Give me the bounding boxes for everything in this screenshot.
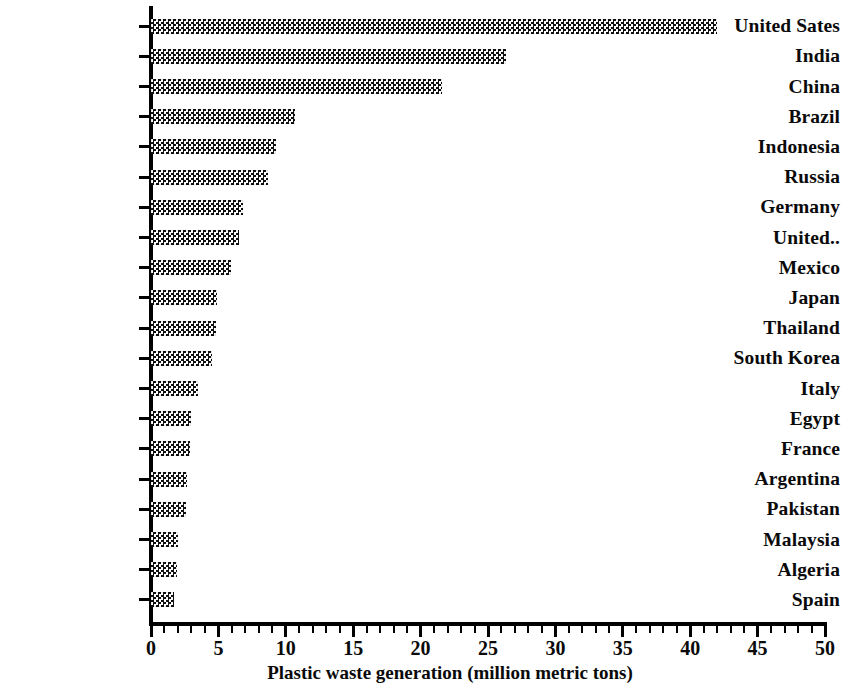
x-axis-minor-tick [500,626,502,633]
x-axis-minor-tick [447,626,449,633]
y-axis-tick [139,447,150,450]
category-label: Thailand [706,318,840,338]
x-axis-minor-tick [527,626,529,633]
category-label: Argentina [706,469,840,489]
bar [151,321,216,336]
x-tick-label: 50 [795,638,845,658]
category-label: India [706,46,840,66]
y-axis-tick [139,568,150,571]
category-label: Russia [706,167,840,187]
category-label: Pakistan [706,499,840,519]
x-tick-label: 10 [256,638,316,658]
x-axis-major-tick [824,626,827,637]
x-axis-minor-tick [797,626,799,633]
x-axis-minor-tick [730,626,732,633]
x-axis-minor-tick [743,626,745,633]
x-axis-minor-tick [474,626,476,633]
x-axis-minor-tick [393,626,395,633]
bar [151,170,268,185]
bar [151,381,198,396]
bar [151,472,187,487]
category-label: Indonesia [706,137,840,157]
x-axis-minor-tick [811,626,813,633]
x-axis-minor-tick [190,626,192,633]
bar [151,230,239,245]
x-tick-label: 35 [593,638,653,658]
x-axis-minor-tick [406,626,408,633]
x-axis-minor-tick [568,626,570,633]
category-label: Mexico [706,258,840,278]
y-axis-tick [139,296,150,299]
y-axis-tick [139,327,150,330]
x-axis-minor-tick [379,626,381,633]
x-axis-minor-tick [662,626,664,633]
y-axis-tick [139,25,150,28]
x-axis-minor-tick [163,626,165,633]
x-tick-label: 40 [660,638,720,658]
bar [151,502,186,517]
x-axis-minor-tick [716,626,718,633]
x-axis-minor-tick [244,626,246,633]
bar [151,351,212,366]
x-axis-minor-tick [231,626,233,633]
bar [151,441,190,456]
bar [151,109,295,124]
x-axis-major-tick [217,626,220,637]
category-label: South Korea [706,348,840,368]
x-axis-major-tick [352,626,355,637]
x-tick-label: 0 [121,638,181,658]
bar [151,562,177,577]
bar [151,290,217,305]
category-label: Spain [706,590,840,610]
x-tick-label: 25 [458,638,518,658]
category-label: Germany [706,197,840,217]
x-axis-minor-tick [177,626,179,633]
x-axis-minor-tick [595,626,597,633]
x-tick-label: 45 [728,638,788,658]
y-axis-tick [139,236,150,239]
x-axis-minor-tick [271,626,273,633]
bar [151,139,276,154]
bar [151,79,442,94]
y-axis-tick [139,266,150,269]
y-axis-tick [139,176,150,179]
bar [151,411,191,426]
bar [151,592,174,607]
category-label: Malaysia [706,530,840,550]
x-axis-major-tick [756,626,759,637]
y-axis-tick [139,538,150,541]
x-axis-major-tick [284,626,287,637]
x-tick-label: 30 [525,638,585,658]
x-axis-minor-tick [649,626,651,633]
x-axis-minor-tick [770,626,772,633]
x-axis-title: Plastic waste generation (million metric… [0,663,840,682]
x-axis-minor-tick [325,626,327,633]
category-label: United Sates [706,16,840,36]
y-axis-tick [139,598,150,601]
x-axis-minor-tick [676,626,678,633]
x-axis-major-tick [621,626,624,637]
y-axis-tick [139,508,150,511]
x-axis-major-tick [150,626,153,637]
category-label: China [706,77,840,97]
x-tick-label: 5 [188,638,248,658]
x-axis-minor-tick [608,626,610,633]
x-axis-minor-tick [366,626,368,633]
category-label: Italy [706,379,840,399]
x-axis-major-tick [487,626,490,637]
y-axis-tick [139,115,150,118]
category-label: United.. [706,228,840,248]
bar [151,200,243,215]
y-axis-tick [139,357,150,360]
category-label: France [706,439,840,459]
y-axis-tick [139,206,150,209]
x-axis-minor-tick [541,626,543,633]
x-axis-minor-tick [204,626,206,633]
x-axis-major-tick [419,626,422,637]
bar [151,532,178,547]
category-label: Algeria [706,560,840,580]
x-tick-label: 15 [323,638,383,658]
bar [151,260,231,275]
y-axis-tick [139,85,150,88]
